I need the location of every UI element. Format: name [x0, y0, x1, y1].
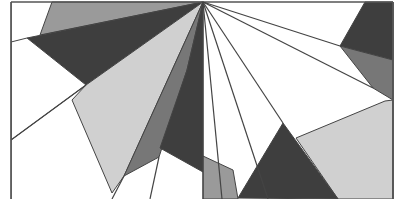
artwork-svg: [0, 0, 404, 199]
right-margin: [394, 0, 404, 199]
geometric-artwork: Abstract grayscale geometric composition…: [0, 0, 404, 199]
left-margin: [0, 0, 11, 199]
